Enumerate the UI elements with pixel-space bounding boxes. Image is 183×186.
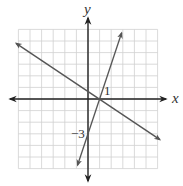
tick-label-1: 1: [104, 84, 111, 97]
tick-label-neg3: −3: [71, 127, 85, 140]
axes: [10, 18, 166, 181]
x-axis-label: x: [172, 91, 179, 106]
coordinate-plane: [0, 0, 183, 186]
y-axis-label: y: [84, 2, 91, 17]
